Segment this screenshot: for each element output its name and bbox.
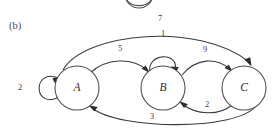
figure-panel-b: A B C 2 5 1 9 7 2 3 (b) [0,0,277,128]
node-c-label: C [240,81,248,93]
node-b[interactable]: B [141,66,185,110]
node-c[interactable]: C [222,66,266,110]
edge-label-c-to-a: 3 [150,111,154,121]
edge-label-c-to-b: 2 [205,99,209,109]
edge-label-b-self: 1 [161,28,165,38]
cropped-circle-above-icon [125,0,153,8]
node-b-label: B [159,81,166,93]
edge-a-to-b [90,61,150,73]
edge-label-a-to-b: 5 [118,43,122,53]
panel-label: (b) [9,20,22,32]
edge-label-a-self: 2 [18,82,22,92]
node-a[interactable]: A [55,66,99,110]
edge-label-a-to-c: 7 [158,13,162,23]
edge-b-to-c [182,61,233,75]
edge-label-b-to-c: 9 [203,44,207,54]
node-a-label: A [72,81,81,93]
